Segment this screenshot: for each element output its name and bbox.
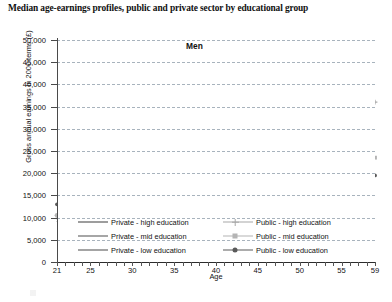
y-tick-label: 15,000 bbox=[0, 191, 46, 200]
x-tick-mark bbox=[316, 262, 317, 266]
legend-label: Public - low education bbox=[256, 246, 328, 255]
page-edge-artifact bbox=[30, 290, 230, 296]
x-tick-mark bbox=[107, 262, 108, 266]
x-tick-mark bbox=[208, 262, 209, 266]
y-tick-mark bbox=[51, 151, 57, 152]
x-tick-mark bbox=[157, 262, 158, 266]
x-tick-mark bbox=[283, 262, 284, 266]
x-tick-mark bbox=[149, 262, 150, 266]
gridline bbox=[57, 62, 375, 63]
legend-label: Public - high education bbox=[256, 218, 331, 227]
x-tick-mark bbox=[241, 262, 242, 266]
y-tick-mark bbox=[51, 240, 57, 241]
legend-label: Private - high education bbox=[111, 218, 189, 227]
x-tick-label: 45 bbox=[254, 266, 262, 275]
x-tick-mark bbox=[233, 262, 234, 266]
legend-item[interactable]: Private - high education bbox=[78, 217, 223, 227]
legend-item[interactable]: Public - mid education bbox=[223, 231, 368, 241]
x-tick-mark bbox=[291, 262, 292, 266]
x-tick-label: 50 bbox=[295, 266, 303, 275]
chart-title: Median age-earnings profiles, public and… bbox=[8, 3, 388, 13]
x-tick-mark bbox=[65, 262, 66, 266]
x-tick-label: 55 bbox=[337, 266, 345, 275]
y-tick-mark bbox=[51, 40, 57, 41]
legend-swatch-icon bbox=[223, 217, 253, 227]
y-tick-mark bbox=[51, 218, 57, 219]
x-tick-mark bbox=[266, 262, 267, 266]
y-tick-mark bbox=[51, 129, 57, 130]
y-tick-label: 5,000 bbox=[0, 235, 46, 244]
x-tick-label: 59 bbox=[371, 266, 379, 275]
x-tick-mark bbox=[74, 262, 75, 266]
x-tick-mark bbox=[224, 262, 225, 266]
x-tick-mark bbox=[191, 262, 192, 266]
x-tick-mark bbox=[249, 262, 250, 266]
y-axis-line bbox=[57, 38, 58, 264]
gridline bbox=[57, 195, 375, 196]
gridline bbox=[57, 40, 375, 41]
x-tick-mark bbox=[183, 262, 184, 266]
x-tick-mark bbox=[124, 262, 125, 266]
x-tick-label: 21 bbox=[53, 266, 61, 275]
x-tick-mark bbox=[325, 262, 326, 266]
x-tick-mark bbox=[350, 262, 351, 266]
legend-label: Public - mid education bbox=[256, 232, 329, 241]
chart-legend: Private - high educationPublic - high ed… bbox=[78, 215, 368, 257]
legend-item[interactable]: Public - high education bbox=[223, 217, 368, 227]
x-tick-mark bbox=[166, 262, 167, 266]
legend-swatch-icon bbox=[78, 231, 108, 241]
legend-item[interactable]: Private - mid education bbox=[78, 231, 223, 241]
x-tick-mark bbox=[199, 262, 200, 266]
x-tick-mark bbox=[275, 262, 276, 266]
gridline bbox=[57, 173, 375, 174]
legend-swatch-icon bbox=[223, 245, 253, 255]
y-tick-mark bbox=[51, 62, 57, 63]
y-tick-label: 10,000 bbox=[0, 213, 46, 222]
legend-label: Private - low education bbox=[111, 246, 186, 255]
y-tick-mark bbox=[51, 173, 57, 174]
chart-figure: Median age-earnings profiles, public and… bbox=[0, 0, 392, 302]
legend-swatch-icon bbox=[78, 217, 108, 227]
x-tick-mark bbox=[82, 262, 83, 266]
legend-label: Private - mid education bbox=[111, 232, 187, 241]
x-tick-mark bbox=[358, 262, 359, 266]
legend-swatch-icon bbox=[78, 245, 108, 255]
y-tick-mark bbox=[51, 84, 57, 85]
gridline bbox=[57, 129, 375, 130]
legend-item[interactable]: Private - low education bbox=[78, 245, 223, 255]
x-tick-mark bbox=[308, 262, 309, 266]
x-tick-label: 30 bbox=[128, 266, 136, 275]
series-group-annotation-men: Men bbox=[186, 41, 203, 51]
x-tick-label: 35 bbox=[170, 266, 178, 275]
y-axis-title: Gross annual earnings in 2000 terms (£) bbox=[24, 22, 33, 172]
x-tick-label: 25 bbox=[86, 266, 94, 275]
gridline bbox=[57, 84, 375, 85]
y-tick-mark bbox=[51, 107, 57, 108]
x-tick-mark bbox=[333, 262, 334, 266]
legend-item[interactable]: Public - low education bbox=[223, 245, 368, 255]
x-axis-title: Age bbox=[209, 272, 222, 281]
x-tick-mark bbox=[367, 262, 368, 266]
x-tick-mark bbox=[99, 262, 100, 266]
legend-swatch-icon bbox=[223, 231, 253, 241]
gridline bbox=[57, 107, 375, 108]
x-tick-mark bbox=[141, 262, 142, 266]
gridline bbox=[57, 151, 375, 152]
y-tick-mark bbox=[51, 195, 57, 196]
x-tick-mark bbox=[116, 262, 117, 266]
y-tick-label: 0 bbox=[0, 258, 46, 267]
